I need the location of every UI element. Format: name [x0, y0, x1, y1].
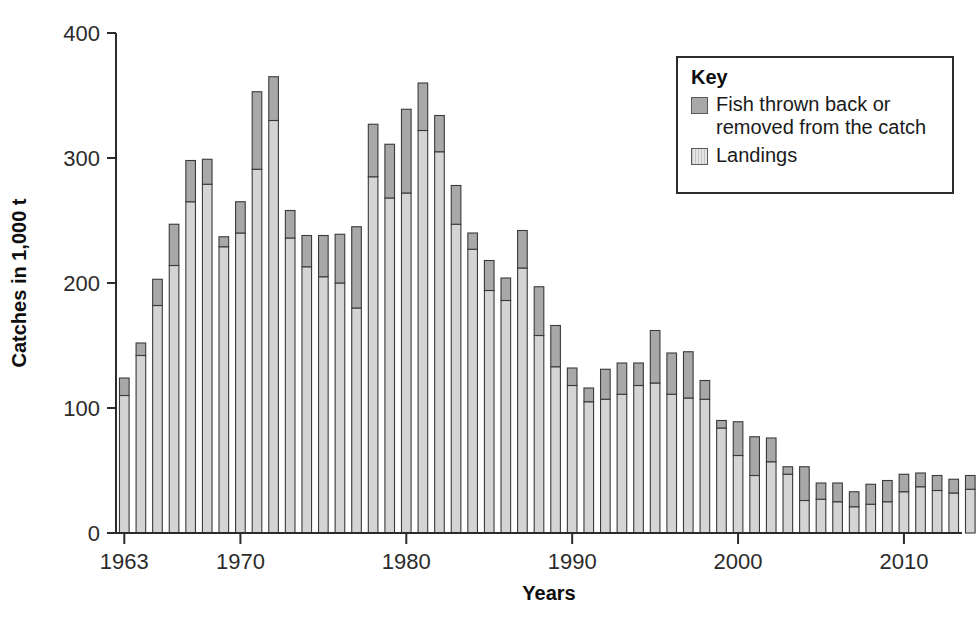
- bar-landings: [119, 396, 129, 534]
- x-tick-label: 1970: [216, 549, 265, 574]
- bar-discards: [932, 476, 942, 491]
- bar-landings: [899, 492, 909, 533]
- legend-discards-line1: Fish thrown back or: [716, 93, 891, 115]
- bar-landings: [153, 306, 163, 534]
- bar-discards: [866, 484, 876, 504]
- bar-discards: [153, 279, 163, 305]
- discard-swatch-icon: [691, 97, 708, 114]
- bar-discards: [368, 124, 378, 177]
- bar-discards: [468, 233, 478, 249]
- bar-landings: [252, 169, 262, 533]
- bar-landings: [717, 428, 727, 533]
- bar-landings: [883, 502, 893, 533]
- bar-discards: [219, 237, 229, 247]
- bar-discards: [916, 473, 926, 487]
- bar-landings: [833, 502, 843, 533]
- y-tick-label: 200: [63, 271, 100, 296]
- bar-discards: [501, 278, 511, 301]
- legend-item-landings: Landings: [691, 144, 940, 167]
- bar-landings: [949, 493, 959, 533]
- bar-landings: [650, 383, 660, 533]
- bar-landings: [401, 193, 411, 533]
- bar-landings: [285, 238, 295, 533]
- bar-landings: [319, 277, 329, 533]
- bar-landings: [368, 177, 378, 533]
- bar-landings: [534, 336, 544, 534]
- bar-discards: [833, 483, 843, 502]
- bar-discards: [949, 479, 959, 493]
- bar-landings: [634, 386, 644, 534]
- x-tick-label: 2000: [714, 549, 763, 574]
- bar-discards: [816, 483, 826, 499]
- bar-discards: [319, 236, 329, 277]
- bar-discards: [667, 353, 677, 394]
- bar-landings: [667, 394, 677, 533]
- bar-landings: [451, 224, 461, 533]
- bar-landings: [468, 249, 478, 533]
- bar-landings: [766, 462, 776, 533]
- bar-discards: [285, 211, 295, 239]
- bar-landings: [866, 504, 876, 533]
- bar-discards: [451, 186, 461, 225]
- bar-discards: [717, 421, 727, 429]
- bar-discards: [302, 236, 312, 267]
- y-tick-label: 400: [63, 21, 100, 46]
- bar-discards: [683, 352, 693, 398]
- bar-landings: [916, 487, 926, 533]
- bar-discards: [584, 388, 594, 402]
- bar-landings: [302, 267, 312, 533]
- bar-landings: [418, 131, 428, 534]
- bar-discards: [169, 224, 179, 265]
- bar-landings: [435, 152, 445, 533]
- bar-landings: [269, 121, 279, 534]
- bar-discards: [269, 77, 279, 121]
- bar-discards: [352, 227, 362, 308]
- x-tick-label: 1963: [100, 549, 149, 574]
- bar-landings: [683, 398, 693, 533]
- bar-discards: [617, 363, 627, 394]
- bar-landings: [335, 283, 345, 533]
- bar-landings: [584, 402, 594, 533]
- bar-discards: [849, 492, 859, 507]
- bar-discards: [335, 234, 345, 283]
- bar-discards: [484, 261, 494, 291]
- bar-landings: [932, 491, 942, 534]
- legend-title: Key: [691, 66, 940, 88]
- bar-discards: [385, 144, 395, 198]
- bar-landings: [617, 394, 627, 533]
- bar-discards: [883, 481, 893, 502]
- bar-discards: [965, 476, 975, 490]
- landings-swatch-icon: [691, 148, 708, 165]
- bar-landings: [236, 233, 246, 533]
- bar-landings: [567, 386, 577, 534]
- x-tick-label: 2010: [879, 549, 928, 574]
- bar-discards: [650, 331, 660, 384]
- y-tick-label: 300: [63, 146, 100, 171]
- bar-discards: [202, 159, 212, 184]
- bar-discards: [766, 438, 776, 462]
- legend-discards-line2: removed from the catch: [716, 116, 926, 138]
- bar-discards: [800, 467, 810, 501]
- bar-discards: [236, 202, 246, 233]
- legend-item-discards-label: Fish thrown back or removed from the cat…: [716, 93, 926, 140]
- bar-discards: [733, 422, 743, 456]
- bar-landings: [800, 501, 810, 534]
- bar-discards: [634, 363, 644, 386]
- legend-item-landings-label: Landings: [716, 144, 797, 167]
- legend-key-box: Key Fish thrown back or removed from the…: [676, 56, 954, 194]
- bar-landings: [849, 507, 859, 533]
- chart-container: 0100200300400196319701980199020002010Yea…: [0, 0, 978, 629]
- x-tick-label: 1990: [548, 549, 597, 574]
- bar-discards: [401, 109, 411, 193]
- bar-landings: [518, 268, 528, 533]
- bar-discards: [119, 378, 129, 396]
- bar-discards: [601, 369, 611, 399]
- bar-landings: [136, 356, 146, 534]
- bar-discards: [418, 83, 428, 131]
- bar-discards: [750, 437, 760, 476]
- bar-discards: [518, 231, 528, 269]
- x-tick-label: 1980: [382, 549, 431, 574]
- bar-landings: [169, 266, 179, 534]
- bar-discards: [435, 116, 445, 152]
- x-axis-title: Years: [522, 582, 575, 604]
